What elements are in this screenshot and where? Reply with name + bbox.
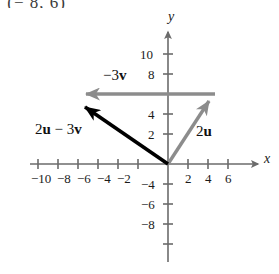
vlbl-second-vec: v: [74, 121, 82, 137]
x-tick-label-6: 6: [225, 172, 232, 185]
x-axis: [30, 159, 258, 169]
vector-label-2u-scalar: 2: [196, 123, 204, 139]
vector-label-2u: 2u: [196, 124, 212, 139]
x-tick-label--2: −2: [117, 172, 131, 185]
y-tick-label-10: 10: [140, 48, 153, 61]
vlbl-op: −: [51, 121, 67, 137]
x-tick-label--6: −6: [77, 172, 91, 185]
y-tick-label--4: −4: [141, 178, 155, 191]
vector-diagram-figure: (− 8, 6): [0, 0, 279, 274]
x-tick-label-4: 4: [205, 172, 212, 185]
y-tick-label-4: 4: [148, 108, 155, 121]
vector-2u-minus-3v: [85, 107, 168, 164]
vlbl-first-vec: u: [43, 121, 51, 137]
x-tick-label--10: −10: [31, 172, 51, 185]
y-tick-label-8: 8: [148, 68, 155, 81]
x-tick-label-2: 2: [185, 172, 192, 185]
vlbl-first: 2: [35, 121, 43, 137]
x-axis-label: x: [264, 152, 270, 166]
vector-label-2u-minus-3v: 2u − 3v: [35, 122, 82, 137]
x-tick-label--4: −4: [97, 172, 111, 185]
y-tick-label--8: −8: [141, 218, 155, 231]
vector-label-neg3v-scalar: −3: [103, 67, 119, 83]
coordinate-plane-svg: [0, 0, 279, 274]
y-axis-label: y: [168, 10, 174, 24]
x-tick-label--8: −8: [57, 172, 71, 185]
vector-label-2u-vector: u: [204, 123, 212, 139]
vector-label-neg3v: −3v: [103, 68, 126, 83]
vector-label-neg3v-vector: v: [119, 67, 127, 83]
y-axis: [163, 32, 173, 262]
y-tick-label-2: 2: [148, 128, 155, 141]
y-tick-label--6: −6: [141, 198, 155, 211]
